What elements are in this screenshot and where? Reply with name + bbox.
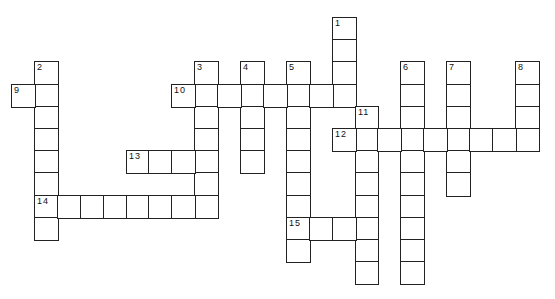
- crossword-cell[interactable]: [286, 239, 311, 263]
- crossword-cell[interactable]: [332, 84, 357, 108]
- crossword-cell[interactable]: 6: [400, 61, 425, 86]
- crossword-cell[interactable]: [355, 195, 379, 219]
- crossword-cell[interactable]: [400, 261, 425, 285]
- clue-number: 3: [197, 63, 203, 72]
- crossword-cell[interactable]: [492, 128, 517, 152]
- crossword-cell[interactable]: [57, 195, 82, 219]
- crossword-cell[interactable]: [309, 84, 334, 108]
- crossword-cell[interactable]: [240, 84, 265, 108]
- crossword-cell[interactable]: [355, 261, 379, 285]
- crossword-cell[interactable]: [194, 84, 219, 108]
- crossword-cell[interactable]: 15: [286, 217, 311, 241]
- crossword-cell[interactable]: [355, 217, 379, 241]
- crossword-cell[interactable]: [355, 150, 379, 174]
- crossword-cell[interactable]: [515, 128, 540, 152]
- crossword-cell[interactable]: [240, 150, 265, 174]
- crossword-cell[interactable]: [148, 150, 173, 174]
- crossword-cell[interactable]: [355, 172, 379, 197]
- crossword-cell[interactable]: 13: [126, 150, 150, 174]
- crossword-cell[interactable]: [446, 128, 471, 152]
- crossword-cell[interactable]: 8: [515, 61, 540, 86]
- clue-number: 8: [518, 63, 524, 72]
- clue-number: 7: [449, 63, 455, 72]
- clue-number: 12: [335, 130, 347, 139]
- crossword-cell[interactable]: [80, 195, 105, 219]
- crossword-cell[interactable]: [332, 39, 357, 63]
- crossword-cell[interactable]: [446, 84, 471, 108]
- crossword-cell[interactable]: [446, 172, 471, 197]
- crossword-cell[interactable]: [286, 150, 311, 174]
- crossword-grid: 121434515678910111213: [0, 0, 555, 299]
- crossword-cell[interactable]: 11: [355, 106, 379, 130]
- clue-number: 13: [129, 152, 141, 161]
- crossword-cell[interactable]: [355, 128, 379, 152]
- crossword-cell[interactable]: 12: [332, 128, 357, 152]
- crossword-cell[interactable]: [34, 84, 59, 108]
- crossword-cell[interactable]: [217, 84, 242, 108]
- clue-number: 5: [289, 63, 295, 72]
- clue-number: 14: [37, 197, 49, 206]
- crossword-cell[interactable]: [126, 195, 150, 219]
- clue-number: 10: [174, 86, 186, 95]
- crossword-cell[interactable]: [171, 195, 196, 219]
- crossword-cell[interactable]: [400, 172, 425, 197]
- crossword-cell[interactable]: [377, 128, 402, 152]
- crossword-cell[interactable]: 2: [34, 61, 59, 86]
- crossword-cell[interactable]: 5: [286, 61, 311, 86]
- crossword-cell[interactable]: [400, 106, 425, 130]
- crossword-cell[interactable]: [446, 106, 471, 130]
- crossword-cell[interactable]: [400, 239, 425, 263]
- crossword-cell[interactable]: [263, 84, 288, 108]
- crossword-cell[interactable]: [400, 84, 425, 108]
- crossword-cell[interactable]: [446, 150, 471, 174]
- crossword-cell[interactable]: [400, 195, 425, 219]
- crossword-cell[interactable]: [332, 217, 357, 241]
- crossword-cell[interactable]: [194, 128, 219, 152]
- crossword-cell[interactable]: [34, 217, 59, 241]
- crossword-cell[interactable]: [194, 195, 219, 219]
- crossword-cell[interactable]: [286, 195, 311, 219]
- crossword-cell[interactable]: [34, 106, 59, 130]
- clue-number: 6: [403, 63, 409, 72]
- crossword-cell[interactable]: [515, 84, 540, 108]
- crossword-cell[interactable]: [515, 106, 540, 130]
- crossword-cell[interactable]: [400, 217, 425, 241]
- crossword-cell[interactable]: [240, 106, 265, 130]
- crossword-cell[interactable]: [240, 128, 265, 152]
- clue-number: 4: [243, 63, 249, 72]
- clue-number: 11: [358, 108, 369, 117]
- crossword-cell[interactable]: 1: [332, 17, 357, 41]
- crossword-cell[interactable]: [332, 61, 357, 86]
- clue-number: 1: [335, 19, 341, 28]
- crossword-cell[interactable]: [355, 239, 379, 263]
- crossword-cell[interactable]: 10: [171, 84, 196, 108]
- crossword-cell[interactable]: [400, 150, 425, 174]
- crossword-cell[interactable]: [148, 195, 173, 219]
- crossword-cell[interactable]: [309, 217, 334, 241]
- crossword-cell[interactable]: [34, 150, 59, 174]
- crossword-cell[interactable]: [34, 172, 59, 197]
- crossword-cell[interactable]: 9: [11, 84, 36, 108]
- crossword-cell[interactable]: [286, 172, 311, 197]
- crossword-cell[interactable]: [194, 172, 219, 197]
- crossword-cell[interactable]: [286, 106, 311, 130]
- crossword-cell[interactable]: [171, 150, 196, 174]
- crossword-cell[interactable]: [423, 128, 448, 152]
- crossword-cell[interactable]: [194, 106, 219, 130]
- crossword-cell[interactable]: 14: [34, 195, 59, 219]
- clue-number: 2: [37, 63, 43, 72]
- crossword-cell[interactable]: [286, 84, 311, 108]
- crossword-cell[interactable]: 7: [446, 61, 471, 86]
- crossword-cell[interactable]: 4: [240, 61, 265, 86]
- crossword-cell[interactable]: 3: [194, 61, 219, 86]
- clue-number: 15: [289, 219, 301, 228]
- crossword-cell[interactable]: [34, 128, 59, 152]
- crossword-cell[interactable]: [194, 150, 219, 174]
- crossword-cell[interactable]: [286, 128, 311, 152]
- crossword-cell[interactable]: [103, 195, 128, 219]
- crossword-cell[interactable]: [469, 128, 494, 152]
- clue-number: 9: [14, 86, 20, 95]
- crossword-cell[interactable]: [400, 128, 425, 152]
